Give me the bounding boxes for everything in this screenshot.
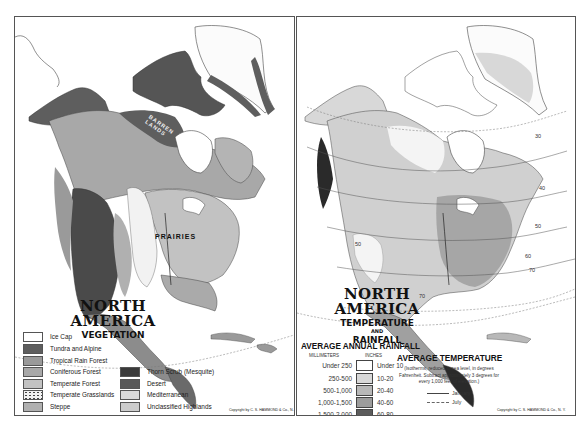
temperature-title: NORTH AMERICA TEMPERATURE AND RAINFALL (317, 287, 437, 345)
legend-item-tropical-rain-forest: Tropical Rain Forest (23, 355, 107, 366)
legend-label: Tropical Rain Forest (50, 357, 107, 364)
legend-label: Unclassified Highlands (147, 403, 212, 410)
temperature-legend-note: (Isotherms, reduced to sea level, in deg… (393, 366, 505, 386)
line-key-label: July (452, 399, 461, 405)
legend-item-tundra: Tundra and Alpine (23, 343, 102, 354)
legend-item-coniferous-forest: Coniferous Forest (23, 366, 101, 377)
isotherm-label: 70 (529, 267, 535, 273)
rainfall-mm: 1,500-2,000 (297, 411, 352, 417)
line-key-january: January (427, 390, 470, 396)
legend-item-thorn-scrub: Thorn Scrub (Mesquite) (120, 366, 214, 377)
legend-label: Thorn Scrub (Mesquite) (147, 368, 214, 375)
rainfall-row: 500-1,00020-40 (297, 384, 393, 396)
legend-label: Temperate Grasslands (50, 391, 114, 398)
swatch (356, 385, 373, 396)
swatch (23, 356, 43, 366)
title-america: AMERICA (317, 302, 437, 317)
swatch (120, 402, 140, 412)
isotherm-label: 40 (539, 185, 545, 191)
legend-label: Temperate Forest (50, 380, 100, 387)
cuba (487, 333, 531, 343)
isotherm-label: 50 (355, 241, 361, 247)
col-header-mm: MILLIMETERS (309, 353, 339, 358)
swatch (23, 367, 43, 377)
swatch (356, 409, 373, 417)
rainfall-row: Under 250Under 10 (297, 359, 403, 371)
dashed-line (427, 402, 449, 403)
rainfall-row: 1,000-1,50040-60 (297, 396, 393, 408)
line-key-label: January (452, 390, 470, 396)
swatch (23, 402, 43, 412)
swatch (23, 390, 43, 400)
rainfall-in: 40-60 (377, 399, 393, 406)
cuba (211, 333, 255, 343)
siberia (15, 36, 59, 87)
swatch (120, 367, 140, 377)
rainfall-legend-title: AVERAGE ANNUAL RAINFALL (301, 342, 420, 351)
rainfall-mm: 500-1,000 (297, 387, 352, 394)
rainfall-mm: 1,000-1,500 (297, 399, 352, 406)
pacific-wet (317, 137, 333, 209)
legend-item-desert: Desert (120, 378, 166, 389)
legend-label: Steppe (50, 403, 70, 410)
isotherm-label: 60 (525, 253, 531, 259)
legend-item-ice-cap: Ice Cap (23, 331, 72, 342)
legend-item-unclassified-highlands: Unclassified Highlands (120, 401, 212, 412)
line-key-july: July (427, 399, 461, 405)
swatch (23, 332, 43, 342)
swatch (120, 379, 140, 389)
swatch (356, 397, 373, 408)
swatch (23, 379, 43, 389)
legend-item-temperate-forest: Temperate Forest (23, 378, 100, 389)
rainfall-mm: Under 250 (297, 362, 352, 369)
rainfall-in: 20-40 (377, 387, 393, 394)
rainfall-mm: 250-500 (297, 375, 352, 382)
legend-label: Coniferous Forest (50, 368, 101, 375)
temperature-rainfall-map-panel: 30 40 50 60 70 50 70 NORTH AMERICA TEMPE… (296, 16, 576, 416)
steppe (114, 213, 132, 297)
swatch (356, 373, 373, 384)
copyright: Copyright by C. S. HAMMOND & Co., N. Y. (497, 408, 566, 412)
legend-item-steppe: Steppe (23, 401, 70, 412)
legend-label: Desert (147, 380, 166, 387)
vegetation-map-panel: BARREN LANDS PRAIRIES NORTH AMERICA VEGE… (14, 16, 295, 416)
title-temperature: TEMPERATURE (317, 319, 437, 328)
solid-line (427, 393, 449, 394)
pacific-coast (54, 167, 73, 271)
rainfall-in: 60-80 (377, 411, 393, 417)
rainfall-row: 250-50010-20 (297, 372, 393, 384)
legend-label: Tundra and Alpine (50, 345, 102, 352)
rainfall-row: 1,500-2,00060-80 (297, 408, 393, 416)
isotherm-label: 50 (535, 223, 541, 229)
hispaniola (257, 344, 277, 353)
legend-item-mediterranean: Mediterranean (120, 389, 188, 400)
col-header-inches: INCHES (365, 353, 382, 358)
rainfall-in: 10-20 (377, 375, 393, 382)
copyright: Copyright by C. S. HAMMOND & Co., N. Y. (229, 408, 295, 412)
isotherm-label: 30 (535, 133, 541, 139)
label-prairies: PRAIRIES (155, 233, 196, 240)
swatch (356, 360, 373, 371)
title-and: AND (317, 329, 437, 334)
legend-label: Mediterranean (147, 391, 188, 398)
legend-label: Ice Cap (50, 333, 72, 340)
legend-item-temperate-grasslands: Temperate Grasslands (23, 389, 114, 400)
title-america: AMERICA (53, 314, 173, 329)
swatch (120, 390, 140, 400)
temperature-legend-title: AVERAGE TEMPERATURE (397, 353, 502, 363)
swatch (23, 344, 43, 354)
